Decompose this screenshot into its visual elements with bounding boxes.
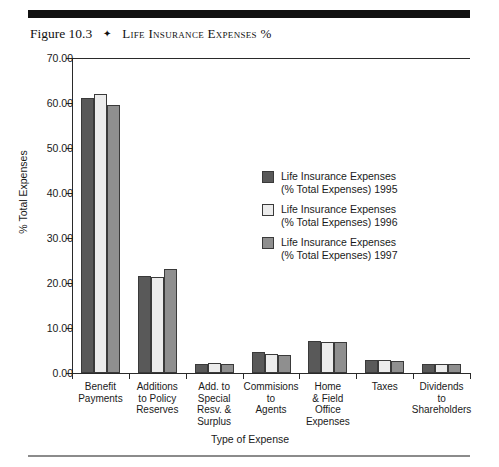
- x-axis-tick: [186, 373, 187, 379]
- bar: [448, 364, 461, 373]
- legend-item: Life Insurance Expenses (% Total Expense…: [262, 170, 398, 195]
- x-axis-category-label: Taxes: [352, 381, 417, 393]
- bar: [94, 94, 107, 373]
- legend-label: Life Insurance Expenses (% Total Expense…: [281, 236, 398, 261]
- y-axis-tick-label: 30.00: [21, 233, 73, 244]
- bar: [195, 364, 208, 373]
- legend-swatch-icon: [262, 171, 274, 183]
- bar-group: [422, 58, 461, 373]
- y-axis-tick-label: 70.00: [21, 53, 73, 64]
- bar: [81, 98, 94, 373]
- legend-swatch-icon: [262, 237, 274, 249]
- bar: [265, 354, 278, 373]
- x-axis-category-label: Add. to Special Resv. & Surplus: [182, 381, 247, 427]
- bar: [321, 342, 334, 374]
- bar-group: [138, 58, 177, 373]
- y-axis-tick-label: 0.00: [21, 368, 73, 379]
- bar: [252, 352, 265, 373]
- chart-legend: Life Insurance Expenses (% Total Expense…: [262, 170, 398, 269]
- x-axis-tick: [470, 373, 471, 379]
- bar: [365, 360, 378, 374]
- bar: [435, 364, 448, 373]
- bar: [208, 363, 221, 373]
- x-axis-tick: [243, 373, 244, 379]
- bar: [378, 360, 391, 373]
- bar: [422, 364, 435, 373]
- x-axis-line: [72, 373, 470, 374]
- bar: [391, 361, 404, 373]
- x-axis-tick: [413, 373, 414, 379]
- x-axis-category-label: Commisions to Agents: [239, 381, 304, 416]
- y-axis: % Total Expenses 70.0060.0050.0040.0030.…: [0, 0, 73, 467]
- bar: [107, 105, 120, 373]
- x-axis-tick: [299, 373, 300, 379]
- x-axis-category-label: Benefit Payments: [68, 381, 133, 404]
- y-axis-tick-label: 40.00: [21, 188, 73, 199]
- x-axis-category-label: Additions to Policy Reserves: [125, 381, 190, 416]
- bar: [151, 277, 164, 373]
- x-axis-category-label: Dividends to Shareholders: [409, 381, 474, 416]
- bar: [278, 355, 291, 373]
- x-axis-tick: [356, 373, 357, 379]
- legend-swatch-icon: [262, 204, 274, 216]
- y-axis-tick-label: 60.00: [21, 98, 73, 109]
- x-axis-category-label: Home & Field Office Expenses: [295, 381, 360, 427]
- legend-item: Life Insurance Expenses (% Total Expense…: [262, 236, 398, 261]
- y-axis-tick-label: 50.00: [21, 143, 73, 154]
- bottom-divider-rule: [28, 455, 470, 457]
- legend-label: Life Insurance Expenses (% Total Expense…: [281, 170, 398, 195]
- bar: [164, 269, 177, 373]
- bar: [138, 276, 151, 373]
- bar: [308, 341, 321, 373]
- bar: [334, 342, 347, 373]
- y-axis-tick-label: 20.00: [21, 278, 73, 289]
- x-axis-tick: [129, 373, 130, 379]
- legend-item: Life Insurance Expenses (% Total Expense…: [262, 203, 398, 228]
- bar-group: [81, 58, 120, 373]
- bar: [221, 364, 234, 373]
- bar-group: [195, 58, 234, 373]
- y-axis-tick-label: 10.00: [21, 323, 73, 334]
- legend-label: Life Insurance Expenses (% Total Expense…: [281, 203, 398, 228]
- x-axis-title: Type of Expense: [180, 433, 320, 445]
- x-axis-tick: [72, 373, 73, 379]
- bar-chart: % Total Expenses 70.0060.0050.0040.0030.…: [0, 0, 499, 467]
